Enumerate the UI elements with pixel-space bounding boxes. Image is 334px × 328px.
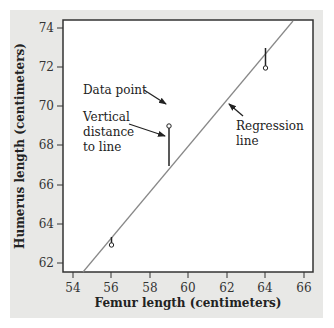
y-tick-label: 62 bbox=[39, 256, 54, 270]
y-tick-label: 66 bbox=[39, 178, 54, 192]
x-tick-label: 62 bbox=[219, 281, 234, 295]
annotation-vertical-1: Vertical bbox=[82, 110, 130, 124]
annotation-vertical-2: distance bbox=[83, 125, 134, 139]
y-tick-label: 70 bbox=[39, 99, 54, 113]
x-tick-label: 56 bbox=[103, 281, 118, 295]
annotation-regression-2: line bbox=[236, 134, 259, 148]
y-tick-label: 72 bbox=[39, 60, 54, 74]
x-tick-label: 64 bbox=[257, 281, 273, 295]
y-tick-label: 68 bbox=[39, 138, 54, 152]
data-point bbox=[167, 124, 171, 128]
x-tick-label: 60 bbox=[180, 281, 195, 295]
y-tick-label: 64 bbox=[39, 217, 55, 231]
x-axis bbox=[73, 272, 304, 278]
annotation-vertical-3: to line bbox=[83, 140, 121, 154]
x-tick-label: 54 bbox=[65, 281, 81, 295]
annotation-regression-1: Regression bbox=[236, 119, 304, 133]
y-tick-label: 74 bbox=[39, 21, 55, 35]
data-point bbox=[109, 243, 113, 247]
y-axis bbox=[57, 28, 63, 263]
x-tick-label: 66 bbox=[296, 281, 311, 295]
data-point bbox=[263, 66, 267, 70]
annotation-data-point: Data point bbox=[83, 83, 147, 97]
x-tick-label: 58 bbox=[142, 281, 157, 295]
scatter-chart: 74 72 70 68 66 64 62 54 56 58 60 62 64 6… bbox=[0, 0, 334, 328]
x-axis-title: Femur length (centimeters) bbox=[95, 296, 282, 310]
y-axis-title: Humerus length (centimeters) bbox=[13, 43, 27, 249]
